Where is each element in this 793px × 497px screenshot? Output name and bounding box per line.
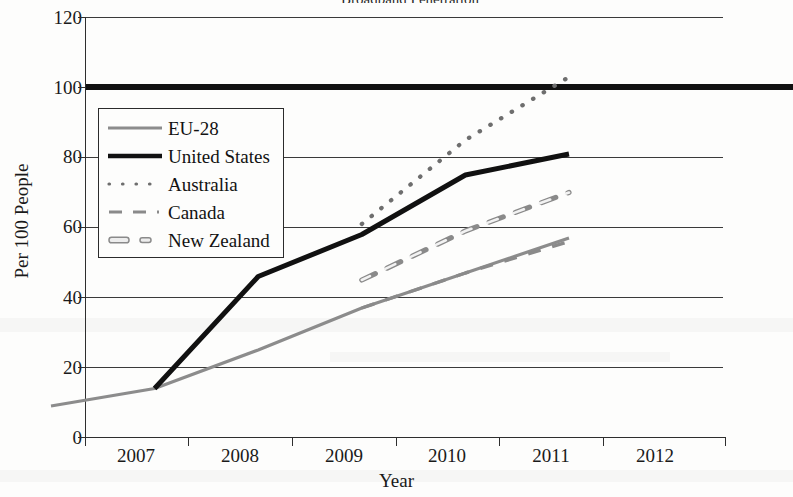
plot-area bbox=[0, 0, 640, 420]
x-tick-label: 2011 bbox=[506, 445, 596, 467]
legend-item-canada[interactable]: Canada bbox=[99, 198, 283, 226]
x-tick-label: 2009 bbox=[299, 445, 389, 467]
dashed-line-icon bbox=[107, 205, 163, 219]
legend-label: Canada bbox=[168, 203, 225, 222]
x-tick-mark bbox=[292, 438, 293, 446]
x-tick-mark bbox=[725, 438, 726, 446]
legend-item-australia[interactable]: Australia bbox=[99, 170, 283, 198]
x-axis-title: Year bbox=[0, 470, 793, 492]
legend-item-eu-28[interactable]: EU-28 bbox=[99, 114, 283, 142]
x-axis-line bbox=[85, 437, 726, 438]
dash-outline-line-icon bbox=[107, 233, 163, 247]
dotted-line-icon bbox=[107, 177, 163, 191]
series-line-new-zealand bbox=[362, 193, 569, 281]
y-axis-title: Per 100 People bbox=[11, 121, 33, 321]
x-tick-label: 2010 bbox=[402, 445, 492, 467]
legend-label: New Zealand bbox=[168, 231, 270, 250]
legend-item-united-states[interactable]: United States bbox=[99, 142, 283, 170]
x-tick-mark bbox=[603, 438, 604, 446]
series-line-canada bbox=[362, 242, 569, 309]
legend-item-new-zealand[interactable]: New Zealand bbox=[99, 226, 283, 254]
x-tick-label: 2007 bbox=[91, 445, 181, 467]
x-tick-label: 2008 bbox=[195, 445, 285, 467]
legend-label: EU-28 bbox=[168, 119, 219, 138]
chart-figure: Broadband Penetration 120 100 80 60 40 2… bbox=[0, 0, 793, 497]
x-tick-label: 2012 bbox=[610, 445, 700, 467]
series-line-australia bbox=[362, 77, 569, 224]
x-tick-mark bbox=[188, 438, 189, 446]
legend-label: United States bbox=[168, 147, 270, 166]
chart-legend: EU-28 United States Australia Canada bbox=[98, 108, 284, 258]
y-tick-label: 0 bbox=[38, 428, 82, 447]
legend-label: Australia bbox=[168, 175, 238, 194]
solid-thin-gray-line-icon bbox=[107, 121, 163, 135]
x-tick-mark bbox=[499, 438, 500, 446]
x-tick-mark bbox=[396, 438, 397, 446]
series-line-eu-28 bbox=[51, 238, 569, 406]
x-tick-mark bbox=[85, 438, 86, 446]
solid-thick-black-line-icon bbox=[107, 149, 163, 163]
